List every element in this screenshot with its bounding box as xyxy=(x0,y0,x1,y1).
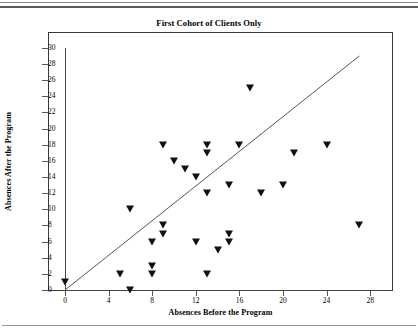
data-point-marker xyxy=(159,230,167,237)
data-point-marker xyxy=(181,165,189,172)
page-rule-bottom xyxy=(2,325,416,326)
data-point-marker xyxy=(116,270,124,277)
y-axis-tick-label: 14 xyxy=(48,173,56,181)
y-axis-tick-label: 2 xyxy=(48,270,52,278)
y-axis-tick-label: 26 xyxy=(48,76,56,84)
x-axis-tick-label: 24 xyxy=(323,297,331,305)
y-axis-tick-label: 20 xyxy=(48,125,56,133)
data-point-marker xyxy=(225,182,233,189)
y-axis-tick-label: 4 xyxy=(48,254,52,262)
data-point-marker xyxy=(159,141,167,148)
data-point-marker xyxy=(290,149,298,156)
y-axis-title-label: Absences After the Program xyxy=(4,112,13,211)
data-point-marker xyxy=(192,174,200,181)
y-axis-tick-label: 6 xyxy=(48,238,52,246)
data-point-marker xyxy=(61,278,69,285)
data-point-marker xyxy=(225,230,233,237)
x-axis-tick-label: 8 xyxy=(150,297,154,305)
data-point-marker xyxy=(203,190,211,197)
y-axis-tick-label: 0 xyxy=(48,286,52,294)
scatter-plot-figure: First Cohort of Clients Only Absences Af… xyxy=(0,8,418,326)
y-axis-tick-label: 22 xyxy=(48,109,56,117)
data-point-marker xyxy=(126,206,134,213)
data-point-marker xyxy=(203,149,211,156)
x-axis-tick-label: 20 xyxy=(279,297,287,305)
chart-title: First Cohort of Clients Only xyxy=(0,18,418,28)
x-axis-title: Absences Before the Program xyxy=(48,308,393,317)
data-point-marker xyxy=(126,287,134,294)
x-axis-tick-label: 0 xyxy=(63,297,67,305)
data-point-marker xyxy=(257,190,265,197)
page-rule-top-thin xyxy=(0,2,418,3)
data-point-marker xyxy=(148,270,156,277)
data-point-marker xyxy=(148,262,156,269)
y-axis-title: Absences After the Program xyxy=(2,32,14,291)
data-point-marker xyxy=(214,246,222,253)
y-axis-tick-label: 16 xyxy=(48,157,56,165)
y-axis-tick-label: 10 xyxy=(48,206,56,214)
data-point-marker xyxy=(159,222,167,229)
x-axis-tick-label: 16 xyxy=(236,297,244,305)
data-point-marker xyxy=(225,238,233,245)
data-point-marker xyxy=(246,85,254,92)
data-point-marker xyxy=(192,238,200,245)
y-axis-tick-label: 30 xyxy=(48,44,56,52)
data-point-marker xyxy=(170,157,178,164)
x-axis-tick-label: 12 xyxy=(192,297,200,305)
data-point-marker xyxy=(355,222,363,229)
data-point-marker xyxy=(203,270,211,277)
plot-area: 024681012141618202224262830 048121620242… xyxy=(48,32,393,291)
x-axis-tick-label: 4 xyxy=(107,297,111,305)
y-axis-tick-label: 12 xyxy=(48,189,56,197)
x-axis-tick-label: 28 xyxy=(366,297,374,305)
data-point-marker xyxy=(279,182,287,189)
y-axis-tick-label: 28 xyxy=(48,60,56,68)
data-point-marker xyxy=(235,141,243,148)
data-point-marker xyxy=(323,141,331,148)
data-point-marker xyxy=(148,238,156,245)
y-axis-tick-label: 8 xyxy=(48,222,52,230)
data-point-marker xyxy=(203,141,211,148)
y-axis-tick-label: 18 xyxy=(48,141,56,149)
y-axis-tick-label: 24 xyxy=(48,93,56,101)
